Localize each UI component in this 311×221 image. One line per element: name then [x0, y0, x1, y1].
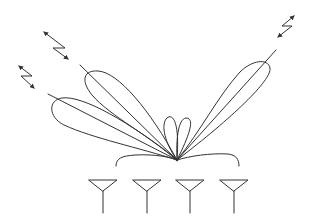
- lobe-right-axis: [177, 50, 276, 160]
- antenna-array: [89, 180, 248, 213]
- antenna-1-icon: [89, 180, 117, 213]
- lobe-right: [177, 50, 276, 160]
- focal-point: [176, 159, 179, 162]
- signal-left-upper-icon: [44, 32, 68, 59]
- antenna-4-icon: [220, 180, 248, 213]
- signal-left-lower-icon: [19, 66, 34, 88]
- beamforming-diagram: Antenna array beamforming radiation patt…: [0, 0, 311, 221]
- antenna-2-icon: [133, 180, 161, 213]
- signal-right-icon: [278, 16, 294, 37]
- lobe-center-right: [177, 118, 191, 160]
- antenna-3-icon: [176, 180, 204, 213]
